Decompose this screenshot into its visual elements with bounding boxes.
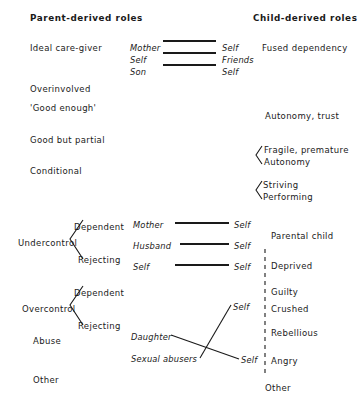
child-role-deprived: Deprived	[271, 262, 312, 271]
role-pair-left-self-6: Self	[133, 263, 149, 271]
branch-label-overcontrol-rejecting: Rejecting	[78, 322, 121, 331]
role-pair-right-self-1: Self	[222, 44, 238, 52]
figure-root: Parent-derived roles Child-derived roles…	[0, 0, 362, 415]
role-pair-right-self-5: Self	[234, 242, 250, 250]
parent-role-abuse: Abuse	[33, 337, 61, 346]
header-child-derived-roles: Child-derived roles	[253, 14, 357, 23]
crossing-label-sexual-abusers: Sexual abusers	[131, 355, 197, 363]
child-role-angry: Angry	[271, 357, 298, 366]
role-pair-right-self-6: Self	[234, 263, 250, 271]
parent-role-conditional: Conditional	[30, 167, 82, 176]
child-role-other: Other	[265, 384, 291, 393]
child-role-autonomy: Autonomy	[264, 158, 310, 167]
fragile-autonomy-chevron	[256, 146, 262, 164]
role-pair-left-self-2: Self	[130, 56, 146, 64]
child-role-rebellious: Rebellious	[271, 329, 318, 338]
parent-role-overinvolved: Overinvolved	[30, 85, 91, 94]
parent-role-ideal-care-giver: Ideal care-giver	[30, 44, 102, 53]
parent-role-good-but-partial: Good but partial	[30, 136, 105, 145]
role-pair-left-mother-1: Mother	[130, 44, 160, 52]
branch-label-undercontrol-dependent: Dependent	[74, 223, 124, 232]
crossing-label-self-crushed: Self	[233, 303, 249, 311]
child-role-striving: Striving	[263, 181, 299, 190]
role-pair-right-self-3: Self	[222, 68, 238, 76]
child-role-performing: Performing	[263, 193, 313, 202]
role-pair-right-friends: Friends	[222, 56, 254, 64]
parent-role-overcontrol: Overcontrol	[22, 305, 76, 314]
role-pair-left-mother-2: Mother	[133, 221, 163, 229]
parent-role-undercontrol: Undercontrol	[18, 239, 77, 248]
child-role-crushed: Crushed	[271, 305, 309, 314]
header-parent-derived-roles: Parent-derived roles	[30, 14, 143, 23]
role-pair-left-son: Son	[130, 68, 146, 76]
role-pair-right-self-4: Self	[234, 221, 250, 229]
child-role-autonomy-trust: Autonomy, trust	[265, 112, 339, 121]
child-role-parental-child: Parental child	[271, 232, 334, 241]
connector-sexual-abusers-self-crushed	[200, 305, 231, 358]
crossing-label-daughter: Daughter	[131, 333, 172, 341]
striving-performing-chevron	[256, 181, 262, 199]
child-role-fused-dependency: Fused dependency	[262, 44, 348, 53]
branch-label-undercontrol-rejecting: Rejecting	[78, 256, 121, 265]
child-role-guilty: Guilty	[271, 288, 298, 297]
parent-role-other: Other	[33, 376, 59, 385]
parent-role-good-enough: 'Good enough'	[30, 104, 96, 113]
child-role-fragile-premature: Fragile, premature	[264, 146, 349, 155]
branch-label-overcontrol-dependent: Dependent	[74, 289, 124, 298]
connector-layer	[0, 0, 362, 415]
crossing-label-self-angry: Self	[241, 356, 257, 364]
role-pair-left-husband: Husband	[133, 242, 171, 250]
